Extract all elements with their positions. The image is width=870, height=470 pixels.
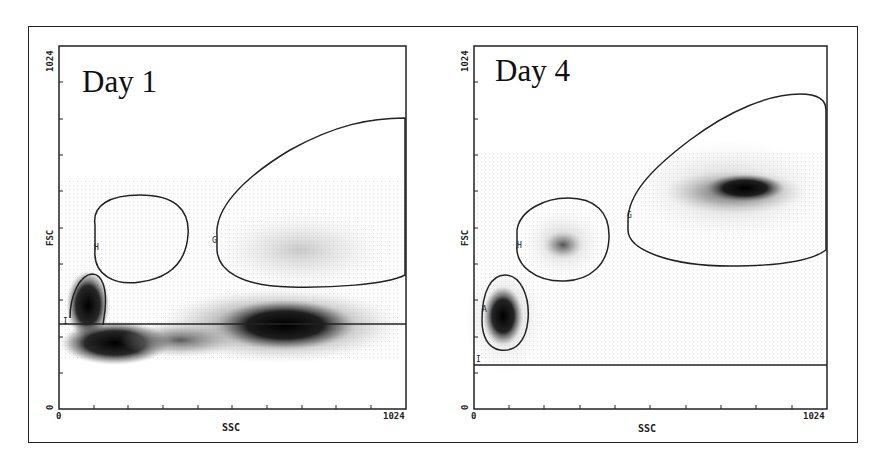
x-max-tick-day4: 1024 [803, 411, 825, 421]
gate-label-h: H [517, 241, 522, 250]
y-min-tick-day1: 0 [45, 405, 55, 410]
gate-label-g: G [627, 211, 632, 220]
gate-label-i: I [476, 355, 481, 364]
y-max-tick-day4: 1024 [460, 50, 470, 72]
panel-day4: H G A I [465, 46, 830, 409]
panel-title-day4: Day 4 [495, 53, 570, 89]
panel-day1: H G I [59, 46, 406, 409]
gate-label-i: I [63, 317, 68, 326]
x-axis-label-day4: SSC [638, 423, 656, 434]
x-min-tick-day1: 0 [56, 411, 61, 421]
y-max-tick-day1: 1024 [45, 50, 55, 72]
y-min-tick-day4: 0 [460, 405, 470, 410]
panel-title-day1: Day 1 [82, 64, 157, 100]
y-axis-label-day1: FSC [45, 230, 55, 246]
x-axis-label-day1: SSC [222, 422, 240, 433]
y-axis-label-day4: FSC [460, 230, 470, 246]
x-min-tick-day4: 0 [471, 411, 476, 421]
x-max-tick-day1: 1024 [383, 411, 405, 421]
gate-label-a: A [482, 305, 487, 314]
gate-label-g: G [212, 236, 217, 245]
gate-label-h: H [94, 243, 99, 252]
